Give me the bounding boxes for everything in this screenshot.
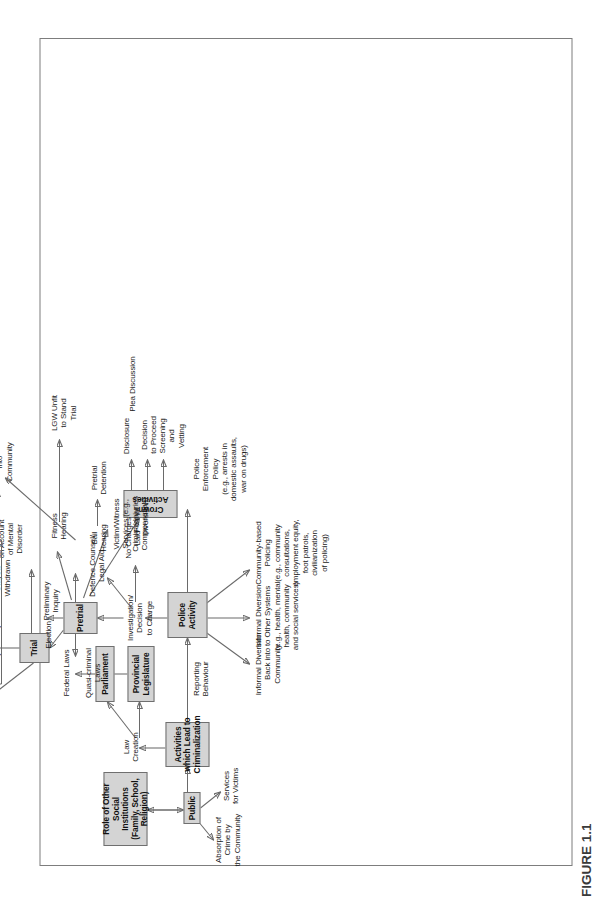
- label-not-criminally-responsible: Not Criminally Responsible on Account of…: [0, 504, 24, 574]
- figure-caption: FIGURE 1.1: [574, 777, 614, 897]
- label-release-into-community: Release into Community: [0, 434, 14, 490]
- diagram-canvas: Role of Other Social Institutions (Famil…: [36, 32, 581, 870]
- figure-caption-text: FIGURE 1.1: [579, 823, 594, 897]
- rotated-diagram-wrapper: Role of Other Social Institutions (Famil…: [0, 0, 616, 901]
- connector-lines-upper: [36, 32, 581, 870]
- figure-page: Role of Other Social Institutions (Famil…: [0, 0, 616, 901]
